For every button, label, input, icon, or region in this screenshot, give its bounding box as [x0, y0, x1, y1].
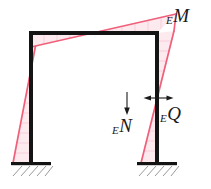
structural-frame-figure: EM EN EQ [0, 0, 211, 189]
left-support [11, 162, 53, 176]
right-support [137, 162, 179, 176]
moment-label-subscript: E [166, 14, 173, 26]
portal-frame [29, 31, 159, 164]
normal-force-label: EN [112, 116, 132, 135]
right-base-plate [137, 162, 177, 165]
shear-force-label-symbol: Q [167, 103, 181, 124]
left-support-hatching [13, 166, 53, 176]
moment-area-left-column [10, 33, 42, 163]
moment-label: EM [166, 6, 189, 25]
moment-area-beam [31, 10, 176, 50]
normal-force-label-subscript: E [112, 124, 119, 136]
right-support-hatching [139, 166, 179, 176]
frame-beam [29, 31, 159, 35]
shear-force-label-subscript: E [160, 112, 167, 124]
shear-force-label: EQ [160, 104, 181, 123]
normal-force-arrow-icon [124, 92, 130, 115]
normal-force-label-symbol: N [119, 115, 132, 136]
frame-left-column [29, 31, 33, 164]
moment-label-symbol: M [173, 5, 189, 26]
left-base-plate [11, 162, 51, 165]
frame-diagram-svg [0, 0, 211, 189]
